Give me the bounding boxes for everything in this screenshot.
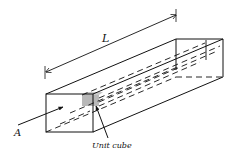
top-left-edge xyxy=(46,39,176,94)
area-arrow xyxy=(18,107,63,125)
unit-cube-pointer xyxy=(96,106,108,138)
area-label: A xyxy=(13,127,21,138)
prism-diagram: L A Unit cube xyxy=(0,0,236,157)
length-label: L xyxy=(101,32,109,45)
unit-cube-label: Unit cube xyxy=(92,141,132,150)
